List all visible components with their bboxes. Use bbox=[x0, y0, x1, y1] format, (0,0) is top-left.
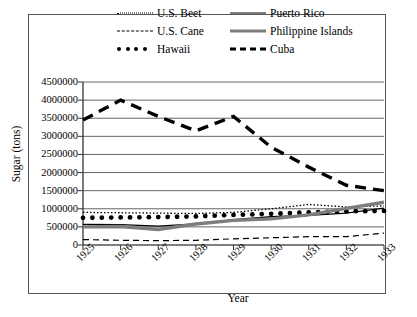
series-line-u-s-cane bbox=[83, 233, 384, 241]
chart-plot bbox=[0, 0, 417, 317]
series-line-cuba bbox=[83, 100, 384, 191]
plot-area-wrapper: 4500000400000035000003000000250000020000… bbox=[0, 0, 417, 317]
